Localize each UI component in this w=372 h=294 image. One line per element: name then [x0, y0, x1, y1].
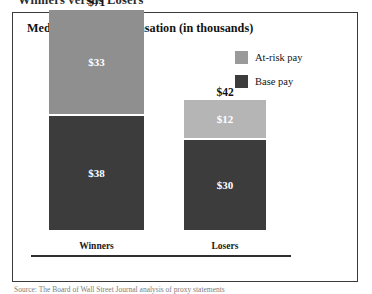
x-axis-line	[31, 255, 291, 257]
legend-swatch-icon-base-pay	[235, 75, 248, 88]
bar-segment-atrisk-losers[interactable]: $12	[184, 100, 266, 138]
chart-legend: At-risk pay Base pay	[235, 51, 303, 99]
legend-label-at-risk-pay: At-risk pay	[255, 52, 303, 63]
bar-segment-label-base-losers: $30	[184, 179, 266, 191]
bar-segment-base-losers[interactable]: $30	[184, 140, 266, 230]
category-label-losers: Losers	[184, 241, 266, 251]
source-note: Source: The Board of Wall Street Journal…	[14, 285, 225, 294]
category-label-winners: Winners	[49, 241, 144, 251]
bar-segment-label-atrisk-losers: $12	[184, 113, 266, 125]
bar-total-label-winners: $71	[49, 0, 144, 8]
plot-area: $71 $33 $38 Winners $42 $12 $30 Losers	[13, 13, 357, 281]
bar-segment-label-atrisk-winners: $33	[49, 56, 144, 68]
bar-segment-base-winners[interactable]: $38	[49, 116, 144, 230]
bar-segment-atrisk-winners[interactable]: $33	[49, 10, 144, 114]
bar-group-winners[interactable]: $71 $33 $38 Winners	[49, 10, 144, 230]
bar-group-losers[interactable]: $42 $12 $30 Losers	[184, 100, 266, 230]
bar-segment-label-base-winners: $38	[49, 167, 144, 179]
legend-item-at-risk-pay[interactable]: At-risk pay	[235, 51, 303, 64]
legend-item-base-pay[interactable]: Base pay	[235, 75, 303, 88]
figure-frame: Median board compensation (in thousands)…	[12, 12, 358, 282]
legend-label-base-pay: Base pay	[255, 76, 293, 87]
legend-swatch-icon-at-risk-pay	[235, 51, 248, 64]
